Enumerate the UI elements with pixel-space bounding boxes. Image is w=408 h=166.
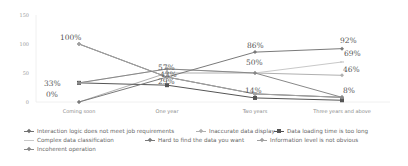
diamond-marker-icon bbox=[77, 100, 81, 104]
legend-label: Data loading time is too long bbox=[287, 128, 368, 134]
diamond-marker-icon bbox=[253, 50, 257, 54]
legend-item[interactable]: Information level is not obvious bbox=[257, 137, 358, 143]
x-tick-label: One year bbox=[156, 108, 180, 115]
legend-label: Incoherent operation bbox=[37, 146, 96, 152]
data-label: 86% bbox=[247, 41, 264, 50]
square-marker-icon bbox=[274, 128, 284, 134]
legend-item[interactable]: Inaccurate data display bbox=[196, 128, 275, 134]
legend-label: Information level is not obvious bbox=[270, 137, 358, 143]
legend-item[interactable]: Interaction logic does not meet job requ… bbox=[24, 128, 174, 134]
legend-label: Inaccurate data display bbox=[209, 128, 275, 134]
data-label: 50% bbox=[246, 58, 263, 67]
diamond-marker-icon bbox=[24, 128, 34, 134]
line-chart: 050100150Coming soonOne yearTwo yearsThr… bbox=[0, 0, 408, 166]
series-line bbox=[79, 49, 342, 102]
data-label: 46% bbox=[343, 65, 360, 74]
x-tick-label: Two years bbox=[242, 108, 268, 115]
y-tick-label: 0 bbox=[26, 99, 29, 105]
legend-label: Hard to find the data you want bbox=[158, 137, 244, 143]
legend-item[interactable]: Incoherent operation bbox=[24, 146, 96, 152]
data-label: 14% bbox=[245, 86, 262, 95]
series-line bbox=[79, 73, 342, 102]
diamond-marker-icon bbox=[24, 146, 34, 152]
diamond-marker-icon bbox=[257, 137, 267, 143]
data-label: 33% bbox=[44, 79, 61, 88]
y-tick-label: 100 bbox=[19, 41, 29, 47]
data-label: 69% bbox=[344, 49, 361, 58]
legend-item[interactable]: Hard to find the data you want bbox=[145, 137, 244, 143]
diamond-marker-icon bbox=[253, 71, 257, 75]
y-tick-label: 150 bbox=[19, 12, 29, 18]
data-label: 0% bbox=[46, 90, 58, 99]
data-label: 8% bbox=[343, 86, 355, 95]
legend-label: Complex data classification bbox=[37, 137, 114, 143]
data-label: 92% bbox=[340, 36, 357, 45]
y-tick-label: 50 bbox=[23, 70, 29, 76]
dash-marker-icon bbox=[24, 137, 34, 143]
square-marker-icon bbox=[253, 96, 257, 100]
x-tick-label: Coming soon bbox=[63, 108, 96, 115]
diamond-marker-icon bbox=[77, 42, 81, 46]
legend-item[interactable]: Complex data classification bbox=[24, 137, 114, 143]
data-label: 29% bbox=[158, 77, 175, 86]
x-tick-label: Three years and above bbox=[312, 108, 371, 115]
diamond-marker-icon bbox=[145, 137, 155, 143]
legend-item[interactable]: Data loading time is too long bbox=[274, 128, 368, 134]
plot-area: 050100150Coming soonOne yearTwo yearsThr… bbox=[0, 0, 408, 126]
diamond-marker-icon bbox=[196, 128, 206, 134]
legend-label: Interaction logic does not meet job requ… bbox=[37, 128, 174, 134]
data-label: 100% bbox=[60, 33, 81, 42]
